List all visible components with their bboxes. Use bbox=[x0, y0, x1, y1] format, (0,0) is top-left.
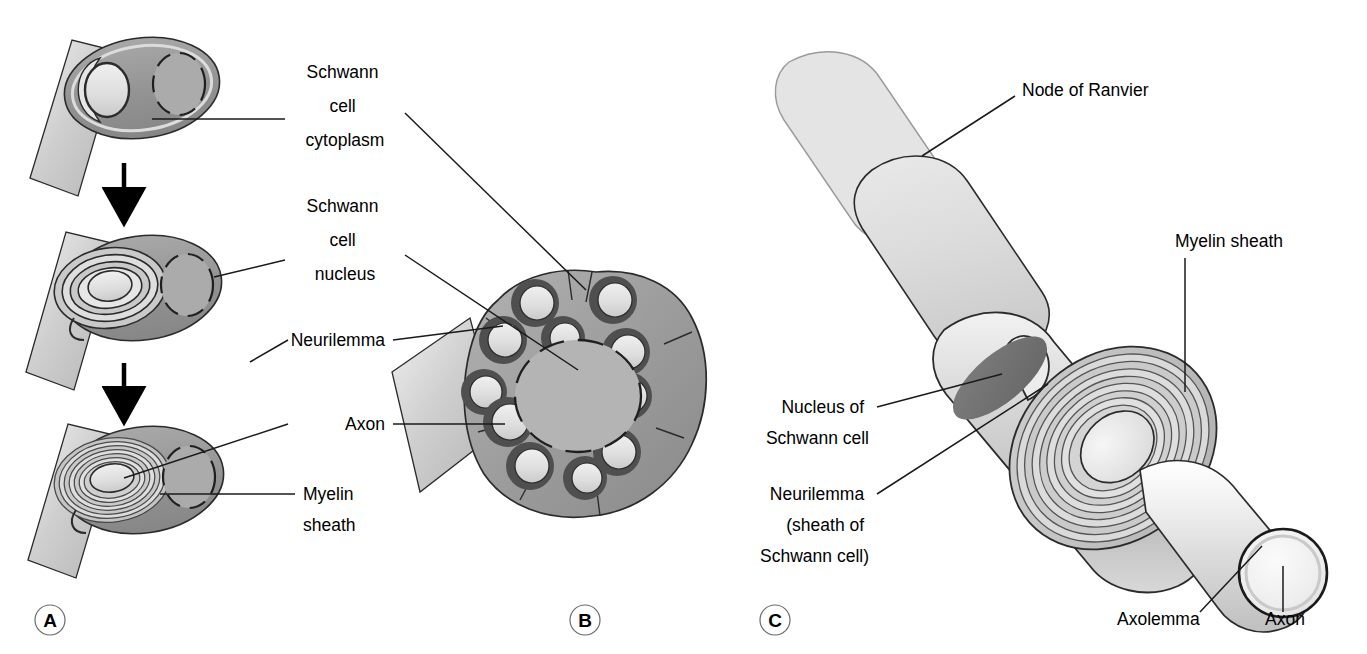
leader-node-of-ranvier bbox=[922, 96, 1015, 156]
panel-letter-b-text: B bbox=[578, 610, 592, 631]
label-nucleus-of-schwann-cell: Nucleus of Schwann cell bbox=[766, 397, 869, 448]
panel-letter-a-text: A bbox=[43, 610, 57, 631]
panel-letter-c-text: C bbox=[768, 610, 782, 631]
panel-letters: A B C bbox=[35, 605, 790, 635]
leader-cytoplasm-b bbox=[405, 113, 586, 290]
schwann-cell-nucleus-stage3 bbox=[163, 446, 215, 508]
panel-letter-c: C bbox=[760, 605, 790, 635]
panel-a-stage-1 bbox=[30, 28, 226, 196]
label-myelin-sheath-a: Myelin sheath bbox=[303, 484, 358, 535]
label-node-of-ranvier: Node of Ranvier bbox=[1022, 80, 1149, 100]
schwann-cell-nucleus-stage2 bbox=[161, 254, 213, 316]
label-myelin-sheath-c: Myelin sheath bbox=[1175, 231, 1283, 251]
myelination-figure: A B C Schwann cell cytoplasm Schwann cel… bbox=[0, 0, 1367, 654]
embedded-axon bbox=[589, 276, 637, 324]
label-schwann-cell-cytoplasm: Schwann cell cytoplasm bbox=[306, 62, 385, 150]
label-neurilemma-sheath-of-schwann-cell: Neurilemma (sheath of Schwann cell) bbox=[760, 484, 869, 566]
panel-a-stage-3 bbox=[28, 416, 231, 578]
label-axolemma: Axolemma bbox=[1117, 609, 1200, 629]
panel-letter-a: A bbox=[35, 605, 65, 635]
embedded-axon bbox=[479, 316, 527, 364]
panel-a-stage-2 bbox=[26, 225, 228, 390]
panel-letter-b: B bbox=[570, 605, 600, 635]
label-axon-c: Axon bbox=[1265, 609, 1305, 629]
label-schwann-cell-nucleus: Schwann cell nucleus bbox=[307, 196, 384, 284]
leader-nucleus-a bbox=[214, 260, 285, 277]
schwann-cell-nucleus-b bbox=[515, 340, 641, 452]
diagram-canvas: A B C Schwann cell cytoplasm Schwann cel… bbox=[0, 0, 1367, 654]
panel-b-graphic bbox=[392, 270, 706, 517]
schwann-cell-nucleus-stage1 bbox=[153, 53, 205, 115]
axon-cross-section-stage1 bbox=[85, 63, 129, 117]
embedded-axon bbox=[506, 442, 554, 490]
panel-c-graphic bbox=[775, 52, 1327, 632]
label-neurilemma: Neurilemma bbox=[291, 330, 386, 350]
leader-neurilemma-a bbox=[250, 340, 288, 362]
panel-a-graphic bbox=[26, 28, 231, 578]
label-axon-b: Axon bbox=[345, 414, 385, 434]
